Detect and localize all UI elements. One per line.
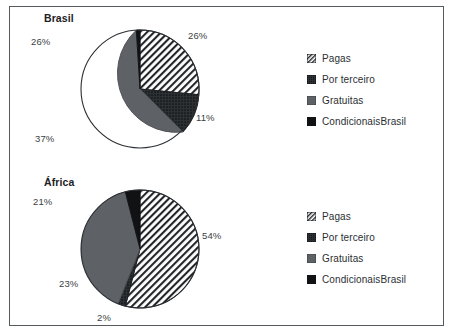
legend-item-por-terceiro[interactable]: Por terceiro bbox=[307, 231, 406, 243]
legend-swatch-gratuitas-icon bbox=[307, 96, 316, 105]
legend-item-gratuitas[interactable]: Gratuitas bbox=[307, 94, 406, 106]
pie-label-gratuitas-brasil: 37% bbox=[35, 133, 54, 144]
legend-item-condicionais[interactable]: CondicionaisBrasil bbox=[307, 115, 406, 127]
legend-swatch-por-terceiro-icon bbox=[307, 233, 316, 242]
legend-label-condicionais: CondicionaisBrasil bbox=[322, 116, 406, 127]
pie-label-gratuitas-africa: 23% bbox=[59, 278, 78, 289]
legend-item-pagas[interactable]: Pagas bbox=[307, 52, 406, 64]
figure-container: Brasil 26% 11% 37% 26% Paga bbox=[0, 0, 455, 335]
legend-africa: Pagas Por terceiro Gratuitas Condicionai… bbox=[307, 210, 406, 285]
pie-label-condicionais-brasil: 26% bbox=[31, 36, 50, 47]
legend-label-pagas: Pagas bbox=[322, 53, 351, 64]
chart-title-brasil: Brasil bbox=[44, 12, 74, 24]
legend-item-condicionais[interactable]: CondicionaisBrasil bbox=[307, 273, 406, 285]
pie-label-por-terceiro-africa: 2% bbox=[97, 312, 111, 323]
legend-item-por-terceiro[interactable]: Por terceiro bbox=[307, 73, 406, 85]
legend-label-por-terceiro: Por terceiro bbox=[322, 232, 375, 243]
legend-item-pagas[interactable]: Pagas bbox=[307, 210, 406, 222]
legend-label-gratuitas: Gratuitas bbox=[322, 253, 363, 264]
pie-label-condicionais-africa: 21% bbox=[33, 196, 52, 207]
legend-label-por-terceiro: Por terceiro bbox=[322, 74, 375, 85]
chart-panel-africa: África 54% 2% 23% 21% Pagas bbox=[0, 166, 455, 333]
pie-chart-africa bbox=[79, 188, 201, 310]
pie-label-pagas-brasil: 26% bbox=[188, 30, 207, 41]
pie-label-por-terceiro-brasil: 11% bbox=[196, 112, 215, 123]
legend-swatch-condicionais-icon bbox=[307, 275, 316, 284]
pie-svg-brasil bbox=[79, 28, 201, 150]
legend-swatch-condicionais-icon bbox=[307, 117, 316, 126]
legend-swatch-por-terceiro-icon bbox=[307, 75, 316, 84]
legend-brasil: Pagas Por terceiro Gratuitas Condicionai… bbox=[307, 52, 406, 127]
legend-label-condicionais: CondicionaisBrasil bbox=[322, 274, 406, 285]
pie-label-pagas-africa: 54% bbox=[202, 230, 221, 241]
legend-label-gratuitas: Gratuitas bbox=[322, 95, 363, 106]
chart-title-africa: África bbox=[44, 176, 74, 188]
chart-panel-brasil: Brasil 26% 11% 37% 26% Paga bbox=[0, 0, 455, 167]
pie-svg-africa bbox=[79, 188, 201, 310]
pie-chart-brasil bbox=[79, 28, 201, 150]
legend-swatch-pagas-icon bbox=[307, 54, 316, 63]
legend-label-pagas: Pagas bbox=[322, 211, 351, 222]
legend-swatch-gratuitas-icon bbox=[307, 254, 316, 263]
legend-item-gratuitas[interactable]: Gratuitas bbox=[307, 252, 406, 264]
legend-swatch-pagas-icon bbox=[307, 212, 316, 221]
